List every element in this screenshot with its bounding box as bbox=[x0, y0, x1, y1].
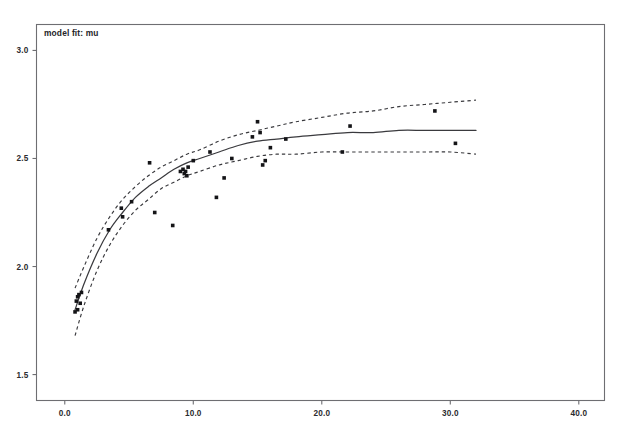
data-point bbox=[269, 146, 273, 150]
data-point bbox=[75, 299, 79, 303]
y-tick-label: 2.5 bbox=[17, 154, 29, 163]
data-point bbox=[107, 228, 111, 232]
data-point bbox=[148, 161, 152, 165]
y-tick-label: 1.5 bbox=[17, 371, 29, 380]
data-point bbox=[191, 159, 195, 163]
data-point bbox=[261, 163, 265, 167]
data-point bbox=[222, 176, 226, 180]
data-point bbox=[230, 157, 234, 161]
data-point bbox=[263, 159, 267, 163]
x-tick-label: 30.0 bbox=[442, 409, 459, 418]
x-tick-label: 40.0 bbox=[570, 409, 587, 418]
data-point bbox=[130, 200, 134, 204]
data-point bbox=[348, 124, 352, 128]
chart-background bbox=[0, 0, 622, 436]
data-point bbox=[251, 135, 255, 139]
data-point bbox=[120, 206, 124, 210]
data-point bbox=[171, 224, 175, 228]
data-point bbox=[215, 196, 219, 200]
data-point bbox=[76, 308, 80, 312]
y-tick-label: 3.0 bbox=[17, 46, 29, 55]
x-tick-label: 20.0 bbox=[313, 409, 330, 418]
chart-container: 1.52.02.53.0 0.010.020.030.040.0 model f… bbox=[0, 0, 622, 436]
model-fit-scatter-chart: 1.52.02.53.0 0.010.020.030.040.0 model f… bbox=[0, 0, 622, 436]
data-point bbox=[208, 150, 212, 154]
data-point bbox=[80, 291, 84, 295]
legend-label: model fit: mu bbox=[44, 28, 99, 38]
data-point bbox=[258, 131, 262, 135]
x-tick-label: 10.0 bbox=[185, 409, 202, 418]
data-point bbox=[185, 174, 189, 178]
data-point bbox=[284, 137, 288, 141]
data-point bbox=[341, 150, 345, 154]
data-point bbox=[433, 109, 437, 113]
x-tick-label: 0.0 bbox=[59, 409, 71, 418]
data-point bbox=[454, 142, 458, 146]
data-point bbox=[256, 120, 260, 124]
data-point bbox=[186, 165, 190, 169]
data-point bbox=[78, 301, 82, 305]
data-point bbox=[121, 215, 125, 219]
data-point bbox=[153, 211, 157, 215]
y-tick-label: 2.0 bbox=[17, 263, 29, 272]
data-point bbox=[184, 170, 188, 174]
